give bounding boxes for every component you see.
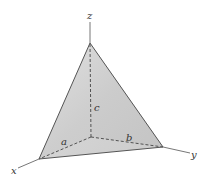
b-label: b (126, 132, 132, 143)
diagram-canvas: z x y a b c (0, 0, 208, 181)
x-axis (18, 159, 39, 168)
tetrahedron-diagram: z x y a b c (0, 0, 208, 181)
c-label: c (94, 102, 100, 113)
z-axis-label: z (86, 10, 93, 21)
face-front (39, 43, 163, 159)
y-axis-label: y (190, 149, 197, 160)
y-axis (163, 147, 190, 153)
a-label: a (61, 136, 67, 147)
x-axis-label: x (11, 165, 17, 176)
